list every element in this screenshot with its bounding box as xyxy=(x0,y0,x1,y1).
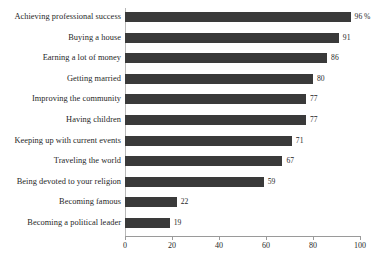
bar xyxy=(125,136,292,146)
bar-value-label: 77 xyxy=(306,94,318,104)
bar-value-label: 91 xyxy=(339,33,351,43)
bar-value-label: 22 xyxy=(177,197,189,207)
bar-value-label: 71 xyxy=(292,136,304,146)
bar xyxy=(125,115,306,125)
bar xyxy=(125,177,264,187)
category-label: Becoming a political leader xyxy=(0,218,121,228)
x-axis-tick xyxy=(219,236,220,240)
bar xyxy=(125,197,177,207)
bar xyxy=(125,94,306,104)
bar-chart: Achieving professional successBuying a h… xyxy=(0,0,383,259)
category-label: Getting married xyxy=(0,74,121,84)
x-axis-tick xyxy=(313,236,314,240)
bar xyxy=(125,218,170,228)
category-label: Improving the community xyxy=(0,94,121,104)
bar-value-label: 86 xyxy=(327,53,339,63)
x-axis-tick xyxy=(360,236,361,240)
category-label: Becoming famous xyxy=(0,197,121,207)
x-axis-tick-label: 0 xyxy=(123,241,127,251)
bar-value-label: 19 xyxy=(170,218,182,228)
bar-value-label: 96 % xyxy=(351,12,371,22)
category-label: Being devoted to your religion xyxy=(0,177,121,187)
x-axis-tick-label: 60 xyxy=(262,241,270,251)
bar-value-label: 67 xyxy=(282,156,294,166)
category-label: Having children xyxy=(0,115,121,125)
category-label: Achieving professional success xyxy=(0,12,121,22)
x-axis-tick-label: 20 xyxy=(168,241,176,251)
bar-value-label: 80 xyxy=(313,74,325,84)
x-axis-tick-label: 80 xyxy=(309,241,317,251)
plot-area: 96 %91868077777167592219 xyxy=(125,0,360,236)
bar xyxy=(125,74,313,84)
bar-value-label: 59 xyxy=(264,177,276,187)
x-axis-line xyxy=(125,236,361,237)
x-axis-tick xyxy=(125,236,126,240)
category-label-column: Achieving professional successBuying a h… xyxy=(0,0,121,259)
bar-value-label: 77 xyxy=(306,115,318,125)
bar xyxy=(125,12,351,22)
bar xyxy=(125,156,282,166)
category-label: Buying a house xyxy=(0,33,121,43)
category-label: Earning a lot of money xyxy=(0,53,121,63)
x-axis-tick xyxy=(266,236,267,240)
category-label: Traveling the world xyxy=(0,156,121,166)
category-label: Keeping up with current events xyxy=(0,136,121,146)
x-axis-tick-label: 40 xyxy=(215,241,223,251)
bar xyxy=(125,53,327,63)
x-axis-tick-label: 100 xyxy=(354,241,366,251)
bar xyxy=(125,33,339,43)
x-axis-tick xyxy=(172,236,173,240)
